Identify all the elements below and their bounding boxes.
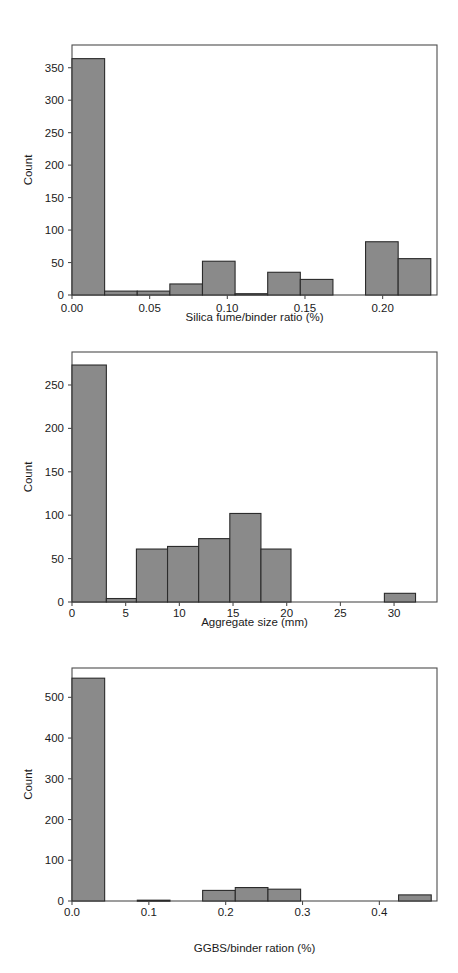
histogram-bar <box>72 365 106 602</box>
histogram-bar <box>106 599 136 602</box>
y-tick-label: 200 <box>45 422 64 434</box>
histogram-bar <box>136 549 167 602</box>
y-tick-label: 100 <box>45 509 64 521</box>
histogram-bar <box>168 546 199 602</box>
histogram-figure: 0.000.050.100.150.2005010015020025030035… <box>0 0 458 973</box>
y-tick-label: 300 <box>45 94 64 106</box>
y-tick-label: 500 <box>45 691 64 703</box>
x-axis-title: GGBS/binder ration (%) <box>194 942 316 954</box>
x-axis-title: Silica fume/binder ratio (%) <box>185 311 323 323</box>
y-tick-label: 100 <box>45 854 64 866</box>
y-tick-label: 200 <box>45 159 64 171</box>
x-tick-label: 0.00 <box>61 302 83 314</box>
y-tick-label: 0 <box>58 596 64 608</box>
x-tick-label: 0.20 <box>371 302 393 314</box>
histogram-bar <box>261 549 291 602</box>
histogram-bar <box>366 242 399 295</box>
histogram-bar <box>203 890 236 901</box>
y-tick-label: 350 <box>45 62 64 74</box>
bar-group <box>72 59 431 295</box>
histogram-bar <box>137 291 170 295</box>
y-tick-label: 100 <box>45 224 64 236</box>
histogram-bar <box>398 259 431 295</box>
x-tick-label: 0.3 <box>295 906 311 918</box>
histogram-bar <box>199 539 230 602</box>
histogram-bar <box>235 888 268 901</box>
panel-ggbs: 0.00.10.20.30.40100200300400500GGBS/bind… <box>0 650 458 973</box>
y-tick-label: 0 <box>58 895 64 907</box>
x-tick-label: 30 <box>388 607 401 619</box>
y-tick-label: 400 <box>45 732 64 744</box>
y-tick-label: 300 <box>45 773 64 785</box>
aggregate-size-histogram-svg: 051015202530050100150200250Aggregate siz… <box>0 330 458 650</box>
histogram-bar <box>399 895 432 901</box>
bar-group <box>72 365 416 602</box>
histogram-bar <box>72 678 105 901</box>
panel-aggregate-size: 051015202530050100150200250Aggregate siz… <box>0 330 458 650</box>
panel-silica-fume: 0.000.050.100.150.2005010015020025030035… <box>0 0 458 330</box>
histogram-bar <box>105 291 138 295</box>
x-tick-label: 25 <box>334 607 347 619</box>
bar-group <box>72 678 431 901</box>
silica-fume-histogram-svg: 0.000.050.100.150.2005010015020025030035… <box>0 0 458 330</box>
y-tick-label: 0 <box>58 289 64 301</box>
histogram-bar <box>384 593 415 602</box>
histogram-bar <box>300 279 333 295</box>
y-tick-label: 150 <box>45 466 64 478</box>
histogram-bar <box>230 513 261 602</box>
y-tick-label: 50 <box>51 257 64 269</box>
x-axis-title: Aggregate size (mm) <box>201 616 308 628</box>
y-tick-label: 250 <box>45 127 64 139</box>
x-tick-label: 0.1 <box>141 906 157 918</box>
x-tick-label: 5 <box>122 607 128 619</box>
y-tick-label: 150 <box>45 192 64 204</box>
plot-frame <box>72 668 437 901</box>
histogram-bar <box>72 59 105 295</box>
y-axis-title: Count <box>22 461 34 492</box>
y-tick-label: 50 <box>51 553 64 565</box>
histogram-bar <box>170 284 203 295</box>
histogram-bar <box>268 889 301 901</box>
y-tick-label: 250 <box>45 379 64 391</box>
histogram-bar <box>268 272 301 295</box>
y-axis-title: Count <box>22 768 34 799</box>
ggbs-histogram-svg: 0.00.10.20.30.40100200300400500GGBS/bind… <box>0 650 458 973</box>
x-tick-label: 10 <box>173 607 186 619</box>
x-tick-label: 0.05 <box>138 302 160 314</box>
y-tick-label: 200 <box>45 814 64 826</box>
histogram-bar <box>202 261 235 295</box>
histogram-bar <box>235 294 268 295</box>
x-tick-label: 0.4 <box>371 906 388 918</box>
y-axis-title: Count <box>22 154 34 185</box>
x-tick-label: 0.0 <box>64 906 80 918</box>
x-tick-label: 0 <box>69 607 75 619</box>
x-tick-label: 0.2 <box>218 906 234 918</box>
histogram-bar <box>137 900 170 901</box>
